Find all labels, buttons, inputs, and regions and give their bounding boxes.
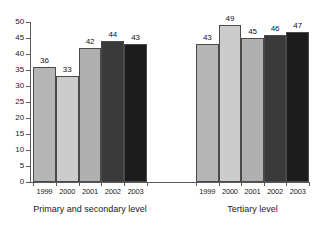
y-axis-tick-mark (26, 182, 30, 183)
bar-item[interactable]: 33 (56, 22, 79, 182)
x-axis-tick-mark (241, 182, 242, 186)
bar-value-label: 33 (56, 65, 79, 74)
y-axis-tick-label: 20 (15, 113, 24, 122)
bar[interactable] (101, 41, 124, 182)
y-axis-tick-mark (26, 38, 30, 39)
x-axis-tick-mark (309, 182, 310, 186)
y-axis-tick-label: 45 (15, 33, 24, 42)
bar-value-label: 44 (101, 30, 124, 39)
y-axis-tick-mark (26, 134, 30, 135)
x-axis-ticks (33, 182, 147, 186)
x-axis-tick-mark (196, 182, 197, 186)
x-axis-tick-label: 2001 (241, 187, 264, 197)
bar[interactable] (124, 44, 147, 182)
y-axis-tick-label: 0 (20, 177, 24, 186)
y-axis-tick-mark (26, 54, 30, 55)
x-axis-tick-mark (33, 182, 34, 186)
y-axis-tick-label: 15 (15, 129, 24, 138)
x-axis-tick-label: 2001 (79, 187, 102, 197)
bar[interactable] (264, 35, 287, 182)
x-axis-tick-label: 2003 (124, 187, 147, 197)
y-axis-tick-label: 5 (20, 161, 24, 170)
bar-item[interactable]: 43 (124, 22, 147, 182)
bar[interactable] (56, 76, 79, 182)
bar-value-label: 42 (79, 37, 102, 46)
bar[interactable] (241, 38, 264, 182)
y-axis-tick-label: 35 (15, 65, 24, 74)
y-axis-tick-mark (26, 166, 30, 167)
bar-item[interactable]: 36 (33, 22, 56, 182)
bar-group: 4349454647 (196, 22, 309, 182)
y-axis-tick-label: 25 (15, 97, 24, 106)
x-axis-tick-label: 2000 (56, 187, 79, 197)
bar-value-label: 43 (196, 33, 219, 42)
y-axis-tick-mark (26, 118, 30, 119)
bar-value-label: 36 (33, 56, 56, 65)
y-axis-tick-mark (26, 86, 30, 87)
bar-value-label: 43 (124, 33, 147, 42)
x-axis-tick-mark (286, 182, 287, 186)
y-axis-tick-label: 30 (15, 81, 24, 90)
x-axis-tick-label: 2000 (219, 187, 242, 197)
bar-group-caption: Tertiary level (196, 203, 309, 215)
x-axis-tick-label: 2003 (286, 187, 309, 197)
y-axis-tick-label: 50 (15, 17, 24, 26)
y-axis-tick-label: 10 (15, 145, 24, 154)
x-axis-tick-label: 1999 (33, 187, 56, 197)
bar-item[interactable]: 45 (241, 22, 264, 182)
bar-value-label: 45 (241, 27, 264, 36)
x-axis-tick-label: 2002 (101, 187, 124, 197)
bar-value-label: 49 (219, 14, 242, 23)
bar[interactable] (33, 67, 56, 182)
x-axis-tick-label: 1999 (196, 187, 219, 197)
y-axis-tick-mark (26, 70, 30, 71)
bar[interactable] (286, 32, 309, 182)
bar-item[interactable]: 44 (101, 22, 124, 182)
x-axis-tick-mark (219, 182, 220, 186)
bar-item[interactable]: 46 (264, 22, 287, 182)
x-axis-tick-mark (79, 182, 80, 186)
bar-group: 3633424443 (33, 22, 147, 182)
bar-row: 4349454647 (196, 22, 309, 182)
y-axis-tick-mark (26, 22, 30, 23)
bar-item[interactable]: 47 (286, 22, 309, 182)
bar[interactable] (219, 25, 242, 182)
bar-item[interactable]: 49 (219, 22, 242, 182)
y-axis-tick-mark (26, 150, 30, 151)
bar-row: 3633424443 (33, 22, 147, 182)
bar[interactable] (196, 44, 219, 182)
x-axis-tick-mark (147, 182, 148, 186)
bar-chart: 50454035302520151050 3633424443199920002… (0, 0, 319, 228)
bar-item[interactable]: 43 (196, 22, 219, 182)
y-axis-tick-mark (26, 102, 30, 103)
bar[interactable] (79, 48, 102, 182)
x-axis-labels: 19992000200120022003 (33, 187, 147, 197)
bar-item[interactable]: 42 (79, 22, 102, 182)
x-axis-labels: 19992000200120022003 (196, 187, 309, 197)
bar-value-label: 47 (286, 21, 309, 30)
y-axis-line (30, 22, 31, 183)
bar-group-caption: Primary and secondary level (33, 203, 147, 215)
x-axis-tick-mark (56, 182, 57, 186)
y-axis-tick-label: 40 (15, 49, 24, 58)
x-axis-tick-mark (124, 182, 125, 186)
x-axis-tick-mark (264, 182, 265, 186)
x-axis-ticks (196, 182, 309, 186)
x-axis-tick-mark (101, 182, 102, 186)
x-axis-tick-label: 2002 (264, 187, 287, 197)
bar-value-label: 46 (264, 24, 287, 33)
